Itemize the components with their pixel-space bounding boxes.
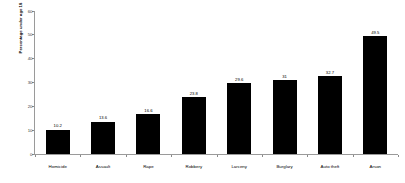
bar (182, 97, 206, 154)
bar-value-label: 16.6 (144, 108, 152, 113)
y-tick-label: 20 (19, 104, 35, 109)
plot-area: 10.213.616.623.829.63132.749.5 (35, 11, 398, 154)
bar-group: 16.6 (126, 11, 171, 154)
y-tick-label: 40 (19, 56, 35, 61)
bar-value-label: 13.6 (99, 115, 107, 120)
bar-chart: Percentage under age 18 0102030405060 10… (0, 0, 405, 183)
x-tick-mark (398, 155, 399, 157)
y-tick-label: 0 (19, 152, 35, 157)
bar (136, 114, 160, 154)
x-category-label: Rape (143, 164, 154, 170)
x-tick-mark (307, 155, 308, 157)
x-tick-mark (262, 155, 263, 157)
bar-group: 49.5 (353, 11, 398, 154)
bar-value-label: 32.7 (326, 70, 334, 75)
x-category-label: Arson (370, 164, 381, 170)
bar (273, 80, 297, 154)
bar (227, 83, 251, 154)
x-category-label: Assault (96, 164, 110, 170)
bar-value-label: 29.6 (235, 77, 243, 82)
y-tick-label: 30 (19, 80, 35, 85)
x-tick-mark (171, 155, 172, 157)
bar-value-label: 23.8 (190, 91, 198, 96)
bar (363, 36, 387, 154)
x-tick-mark (35, 155, 36, 157)
x-category-label: Burglary (276, 164, 292, 170)
x-tick-mark (126, 155, 127, 157)
bar-group: 23.8 (171, 11, 216, 154)
bar (91, 122, 115, 154)
bar-value-label: 10.2 (54, 123, 62, 128)
x-axis-ticks: HomicideAssaultRapeRobberyLarcenyBurglar… (35, 155, 398, 183)
bar-group: 13.6 (80, 11, 125, 154)
bar (318, 76, 342, 154)
x-category-label: Larceny (231, 164, 247, 170)
x-category-label: Auto theft (321, 164, 340, 170)
bar-group: 31 (262, 11, 307, 154)
bar-group: 32.7 (307, 11, 352, 154)
bar (46, 130, 70, 154)
x-category-label: Robbery (186, 164, 203, 170)
x-category-label: Homicide (49, 164, 67, 170)
y-tick-label: 10 (19, 128, 35, 133)
bar-group: 29.6 (217, 11, 262, 154)
y-axis-ticks: 0102030405060 (14, 0, 34, 183)
x-tick-mark (80, 155, 81, 157)
bar-group: 10.2 (35, 11, 80, 154)
y-tick-label: 50 (19, 32, 35, 37)
x-tick-mark (353, 155, 354, 157)
y-tick-label: 60 (19, 9, 35, 14)
x-tick-mark (217, 155, 218, 157)
bar-value-label: 49.5 (371, 30, 379, 35)
bar-value-label: 31 (282, 74, 287, 79)
